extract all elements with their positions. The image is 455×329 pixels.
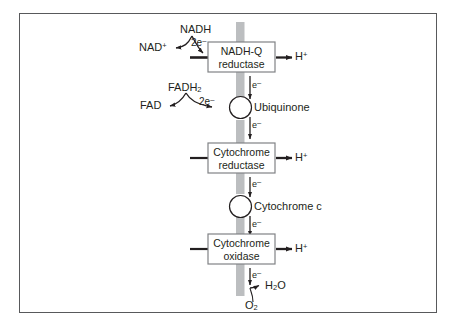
electron-to-water-arrow <box>250 286 259 289</box>
two-electron-label-fadh2: 2e– <box>199 96 214 107</box>
fadh2-label: FADH2 <box>168 82 202 94</box>
proton-label-complex-i: H+ <box>295 51 307 62</box>
fad-label: FAD <box>140 100 161 111</box>
electron-label-complex-iii-out: e– <box>252 178 261 189</box>
electron-label-complex-iv-out: e– <box>252 269 261 280</box>
complex-iv-line1: Cytochrome <box>208 237 275 250</box>
complex-iii-line2: reductase <box>208 159 275 172</box>
figure-canvas: NADH NAD+ 2e– NADH-Q reductase H+ e– FAD… <box>0 0 455 329</box>
proton-label-complex-iv: H+ <box>295 243 307 254</box>
complex-iv-line2: oxidase <box>208 250 275 263</box>
ubiquinone-label: Ubiquinone <box>254 102 310 113</box>
two-electron-label-nadh: 2e– <box>191 37 206 48</box>
complex-iii-label: Cytochrome reductase <box>208 146 275 171</box>
complex-i-line2: reductase <box>208 58 275 71</box>
nadh-to-nad-arrow <box>176 36 192 48</box>
nadh-label: NADH <box>180 24 211 35</box>
oxygen-label: O2 <box>245 300 258 312</box>
nad-plus-label: NAD+ <box>139 42 167 53</box>
ubiquinone-circle <box>230 97 252 119</box>
complex-i-label: NADH-Q reductase <box>208 45 275 70</box>
electron-label-cytc-out: e– <box>252 218 261 229</box>
complex-i-line1: NADH-Q <box>208 45 275 58</box>
electron-label-complex-i-out: e– <box>252 79 261 90</box>
electron-label-ubiquinone-out: e– <box>252 119 261 130</box>
fadh2-to-fad-arrow <box>170 93 186 106</box>
complex-iii-line1: Cytochrome <box>208 146 275 159</box>
cytochrome-c-label: Cytochrome c <box>254 201 322 212</box>
proton-label-complex-iii: H+ <box>295 152 307 163</box>
water-label: H2O <box>265 280 286 292</box>
cytochrome-c-circle <box>230 196 252 218</box>
complex-iv-label: Cytochrome oxidase <box>208 237 275 262</box>
